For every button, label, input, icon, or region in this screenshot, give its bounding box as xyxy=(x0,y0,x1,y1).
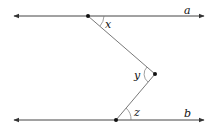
angle-z-arc xyxy=(126,108,131,120)
label-angle-y: y xyxy=(133,69,141,82)
diagram-canvas: a b x y z xyxy=(0,0,214,130)
angle-y-arc xyxy=(144,67,148,82)
label-line-a: a xyxy=(184,4,191,17)
segment-top-to-middle xyxy=(88,16,155,74)
angle-x-arc xyxy=(100,16,104,26)
label-angle-z: z xyxy=(133,106,140,119)
parallel-lines-diagram: a b x y z xyxy=(0,0,214,130)
middle-vertex-point xyxy=(153,72,157,76)
label-angle-x: x xyxy=(105,18,112,31)
label-line-b: b xyxy=(184,107,191,120)
bottom-vertex-point xyxy=(114,118,118,122)
top-vertex-point xyxy=(86,14,90,18)
